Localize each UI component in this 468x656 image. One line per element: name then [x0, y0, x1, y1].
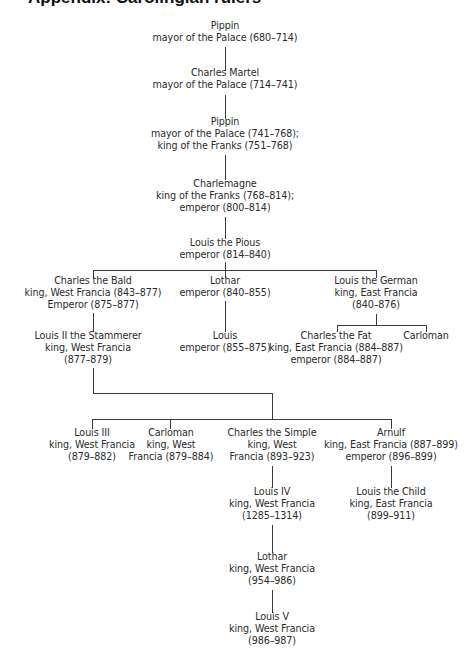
node-title: mayor of the Palace (741–768); [151, 128, 299, 140]
node-louis-the-german: Louis the German king, East Francia (840… [334, 275, 417, 311]
node-carloman-west: Carloman king, West Francia (879–884) [129, 427, 214, 463]
node-title: king, West Francia [34, 342, 141, 354]
node-title: (840–876) [334, 299, 417, 311]
connector-line [376, 270, 377, 278]
connector-line [225, 301, 226, 332]
connector-line [272, 525, 273, 553]
node-name: Carloman [129, 427, 214, 439]
node-title: emperor (800–814) [156, 202, 294, 214]
node-title: king, West Francia (843–877) [25, 287, 162, 299]
connector-line [225, 47, 226, 71]
node-title: king, East Francia [350, 498, 433, 510]
node-title: king, West Francia [229, 623, 315, 635]
node-title: (877–879) [34, 354, 141, 366]
node-title: (899–911) [350, 510, 433, 522]
node-title: king, East Francia [334, 287, 417, 299]
node-louis-iii: Louis III king, West Francia (879–882) [49, 427, 135, 463]
connector-line [92, 419, 93, 429]
node-louis-emperor: Louis emperor (855–875) [179, 330, 270, 354]
node-charles-the-simple: Charles the Simple king, West Francia (8… [228, 427, 317, 463]
node-title: Francia (879–884) [129, 451, 214, 463]
node-title: emperor (855–875) [179, 342, 270, 354]
connector-line [426, 325, 427, 332]
node-title: king, West Francia [229, 498, 315, 510]
node-charles-the-bald: Charles the Bald king, West Francia (843… [25, 275, 162, 311]
node-title: mayor of the Palace (714–741) [153, 79, 298, 91]
connector-line [272, 466, 273, 488]
node-louis-the-child: Louis the Child king, East Francia (899–… [350, 486, 433, 522]
sibling-bar-louis-stammerer [92, 419, 392, 420]
connector-line [225, 155, 226, 180]
node-name: Charles the Simple [228, 427, 317, 439]
connector-line [391, 466, 392, 488]
sibling-bar-louis-german [337, 325, 427, 326]
node-title: king, West Francia [229, 563, 315, 575]
node-louis-iv: Louis IV king, West Francia (1285–1314) [229, 486, 315, 522]
node-title: king, West Francia [49, 439, 135, 451]
node-louis-v: Louis V king, West Francia (986–987) [229, 611, 315, 647]
node-title: (1285–1314) [229, 510, 315, 522]
connector-line [337, 325, 338, 332]
node-title: mayor of the Palace (680–714) [153, 32, 298, 44]
connector-line [376, 314, 377, 325]
node-name: Pippin [153, 20, 298, 32]
connector-line [93, 270, 94, 278]
node-lothar-emperor: Lothar emperor (840–855) [179, 275, 270, 299]
node-title: emperor (814–840) [179, 249, 270, 261]
connector-line [93, 368, 94, 394]
connector-line [93, 393, 273, 394]
node-title: Francia (893–923) [228, 451, 317, 463]
node-name: Louis II the Stammerer [34, 330, 141, 342]
node-louis-ii-the-stammerer: Louis II the Stammerer king, West Franci… [34, 330, 141, 366]
node-title: king, West [228, 439, 317, 451]
node-charlemagne: Charlemagne king of the Franks (768–814)… [156, 178, 294, 214]
sibling-bar-louis-pious [93, 270, 377, 271]
node-name: Charles the Fat [269, 330, 403, 342]
connector-line [391, 419, 392, 429]
node-arnulf: Arnulf king, East Francia (887–899) empe… [324, 427, 458, 463]
node-title: king of the Franks (768–814); [156, 190, 294, 202]
node-title: king, East Francia (887–899) [324, 439, 458, 451]
connector-line [170, 419, 171, 429]
node-louis-the-pious: Louis the Pious emperor (814–840) [179, 237, 270, 261]
page-title: Appendix: Carolingian rulers [28, 0, 261, 8]
node-title: emperor (840–855) [179, 287, 270, 299]
node-title: (954–986) [229, 575, 315, 587]
node-title: Emperor (875–877) [25, 299, 162, 311]
connector-line [225, 217, 226, 239]
node-pippin-king: Pippin mayor of the Palace (741–768); ki… [151, 116, 299, 152]
node-title: king, East Francia (884–887) [269, 342, 403, 354]
node-title: emperor (884–887) [269, 354, 403, 366]
node-title: king, West [129, 439, 214, 451]
node-pippin-mayor-680: Pippin mayor of the Palace (680–714) [153, 20, 298, 44]
node-title: emperor (896–899) [324, 451, 458, 463]
connector-line [272, 590, 273, 613]
node-title: (986–987) [229, 635, 315, 647]
node-lothar-king: Lothar king, West Francia (954–986) [229, 551, 315, 587]
node-charles-the-fat: Charles the Fat king, East Francia (884–… [269, 330, 403, 366]
connector-line [225, 95, 226, 119]
connector-line [93, 313, 94, 332]
connector-line [272, 393, 273, 420]
node-title: king of the Franks (751–768) [151, 140, 299, 152]
node-title: (879–882) [49, 451, 135, 463]
